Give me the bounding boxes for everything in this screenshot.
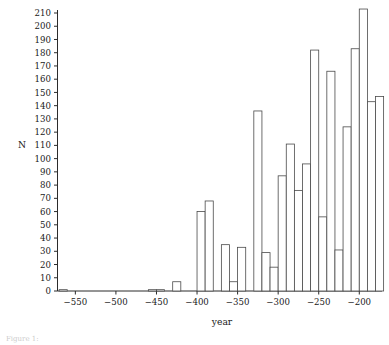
histogram-bar <box>351 49 359 291</box>
histogram-bar <box>311 50 319 291</box>
y-tick-label: 90 <box>40 167 51 177</box>
histogram-bar <box>173 282 181 291</box>
y-tick-label: 130 <box>35 114 51 124</box>
x-tick-label: −350 <box>226 297 250 307</box>
y-tick-label: 50 <box>40 220 51 230</box>
histogram-plot: 0102030405060708090100110120130140150160… <box>0 0 389 345</box>
y-tick-label: 30 <box>40 246 51 256</box>
x-tick-label: −450 <box>145 297 169 307</box>
histogram-bar <box>254 111 262 291</box>
histogram-bar <box>376 96 384 291</box>
x-tick-label: −250 <box>307 297 331 307</box>
x-axis-ticks: −550−500−450−400−350−300−250−200 <box>64 291 372 307</box>
x-axis-label: year <box>211 316 233 327</box>
y-tick-label: 80 <box>40 180 51 190</box>
y-tick-label: 70 <box>40 193 51 203</box>
histogram-bar <box>343 127 351 291</box>
y-tick-label: 160 <box>35 74 51 84</box>
y-tick-label: 60 <box>40 207 51 217</box>
histogram-bar <box>319 217 327 291</box>
y-tick-label: 140 <box>35 101 51 111</box>
y-tick-label: 0 <box>46 286 51 296</box>
figure-caption-fragment: Figure 1: <box>6 335 126 343</box>
histogram-bars <box>59 9 384 291</box>
y-tick-label: 190 <box>35 35 51 45</box>
histogram-bar <box>221 245 229 291</box>
histogram-bar <box>367 102 375 291</box>
histogram-bar <box>302 164 310 291</box>
x-tick-label: −500 <box>104 297 128 307</box>
x-tick-label: −300 <box>266 297 290 307</box>
y-tick-label: 120 <box>35 127 51 137</box>
histogram-bar <box>148 290 156 291</box>
x-tick-label: −200 <box>347 297 371 307</box>
histogram-bar <box>294 190 302 291</box>
y-tick-label: 110 <box>35 140 51 150</box>
y-tick-label: 150 <box>35 88 51 98</box>
y-tick-label: 170 <box>35 61 51 71</box>
histogram-bar <box>197 212 205 291</box>
histogram-bar <box>278 176 286 291</box>
histogram-bar <box>262 253 270 291</box>
y-tick-label: 20 <box>40 260 51 270</box>
histogram-bar <box>327 71 335 291</box>
y-axis-label: N <box>18 139 26 150</box>
y-tick-label: 180 <box>35 48 51 58</box>
histogram-bar <box>238 247 246 291</box>
histogram-bar <box>335 250 343 291</box>
histogram-bar <box>286 144 294 291</box>
histogram-bar <box>229 282 237 291</box>
y-tick-label: 100 <box>35 154 51 164</box>
y-tick-label: 40 <box>40 233 51 243</box>
histogram-bar <box>205 201 213 291</box>
y-tick-label: 210 <box>35 8 51 18</box>
y-tick-label: 10 <box>40 273 51 283</box>
y-tick-label: 200 <box>35 21 51 31</box>
histogram-bar <box>59 290 67 291</box>
histogram-bar <box>359 9 367 291</box>
x-tick-label: −550 <box>64 297 88 307</box>
y-axis-ticks: 0102030405060708090100110120130140150160… <box>35 8 58 296</box>
histogram-figure: 0102030405060708090100110120130140150160… <box>0 0 389 345</box>
x-tick-label: −400 <box>185 297 209 307</box>
histogram-bar <box>156 290 164 291</box>
histogram-bar <box>270 267 278 291</box>
